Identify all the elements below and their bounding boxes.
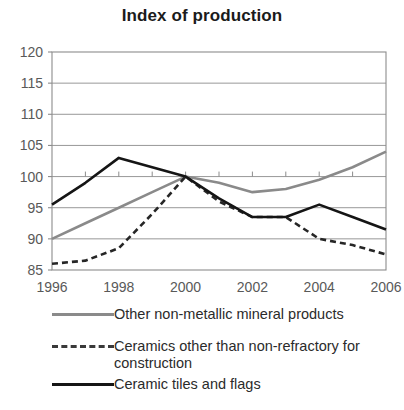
y-axis-labels: 859095100105110115120: [20, 44, 44, 278]
x-axis-tick-label: 2004: [304, 279, 335, 295]
series-line-1: [52, 177, 386, 264]
axis-frame: [52, 52, 386, 270]
y-axis-tick-label: 100: [20, 169, 44, 185]
legend-label-0: Other non-metallic mineral products: [114, 306, 344, 323]
legend-label-2: Ceramic tiles and flags: [114, 376, 261, 393]
legend-swatch-solid-black-icon: [52, 376, 114, 392]
y-axis-tick-label: 110: [21, 106, 44, 122]
series-line-0: [52, 152, 386, 239]
y-axis-tick-label: 90: [27, 231, 43, 247]
legend-item-2: Ceramic tiles and flags: [52, 376, 398, 393]
x-axis-tick-label: 1996: [36, 279, 67, 295]
x-axis-tick-label: 2000: [170, 279, 201, 295]
y-axis-tick-label: 95: [27, 200, 43, 216]
x-tick-marks: [85, 172, 352, 177]
x-axis-tick-label: 2002: [237, 279, 268, 295]
y-axis-tick-label: 120: [20, 44, 44, 60]
chart-legend: Other non-metallic mineral products Cera…: [0, 302, 404, 410]
legend-item-0: Other non-metallic mineral products: [52, 306, 398, 323]
legend-swatch-dashed-gray-icon: [52, 338, 114, 354]
legend-swatch-solid-gray-icon: [52, 306, 114, 322]
legend-item-1: Ceramics other than non-refractory for c…: [52, 338, 404, 372]
x-axis-labels: 199619982000200220042006: [36, 279, 401, 295]
x-axis-tick-label: 1998: [103, 279, 134, 295]
y-axis-tick-label: 105: [20, 137, 44, 153]
y-axis-tick-label: 85: [27, 262, 43, 278]
series-line-2: [52, 158, 386, 230]
y-tick-marks: [48, 52, 52, 270]
x-axis-tick-label: 2006: [370, 279, 401, 295]
y-axis-tick-label: 115: [21, 75, 44, 91]
legend-label-1: Ceramics other than non-refractory for c…: [114, 338, 360, 372]
chart-container: Index of production 85909510010511011512…: [0, 0, 404, 410]
